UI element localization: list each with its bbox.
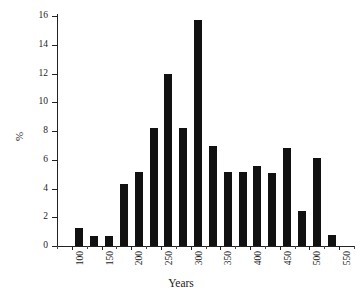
y-tick-label: 6 (26, 155, 48, 165)
x-tick (131, 246, 132, 250)
bar (194, 20, 202, 246)
y-tick-label: 14 (26, 40, 48, 50)
x-tick-label: 550 (343, 251, 353, 265)
bar (268, 173, 276, 246)
x-tick-minor (57, 246, 58, 249)
x-tick-label: 500 (313, 251, 323, 265)
bar (209, 146, 217, 246)
bar (283, 148, 291, 246)
x-tick-label: 250 (165, 251, 175, 265)
bar (150, 128, 158, 246)
x-tick-minor (235, 246, 236, 249)
x-tick-label: 400 (254, 251, 264, 265)
x-tick-label: 350 (224, 251, 234, 265)
x-tick-label: 100 (76, 251, 86, 265)
bar (135, 172, 143, 246)
x-tick-minor (87, 246, 88, 249)
y-tick-label: 16 (26, 11, 48, 21)
y-tick-label: 12 (26, 69, 48, 79)
histogram-figure: % 0246810121416 100150200250300350400450… (0, 0, 362, 297)
x-tick (280, 246, 281, 250)
bar (75, 228, 83, 246)
bar (328, 235, 336, 246)
x-tick (250, 246, 251, 250)
x-axis-label: Years (0, 277, 362, 289)
x-tick-minor (116, 246, 117, 249)
x-tick-label: 200 (135, 251, 145, 265)
x-tick (102, 246, 103, 250)
x-tick-minor (354, 246, 355, 249)
bar (313, 158, 321, 246)
bar (239, 172, 247, 246)
bars-container (57, 16, 354, 246)
x-tick (309, 246, 310, 250)
y-axis-label: % (14, 127, 25, 147)
x-tick-minor (295, 246, 296, 249)
x-tick (161, 246, 162, 250)
bar (179, 128, 187, 246)
y-tick-label: 4 (26, 184, 48, 194)
x-tick-minor (324, 246, 325, 249)
x-tick-minor (176, 246, 177, 249)
bar (105, 236, 113, 246)
x-tick-label: 150 (106, 251, 116, 265)
x-tick (339, 246, 340, 250)
bar (164, 74, 172, 246)
x-tick-minor (146, 246, 147, 249)
bar (253, 166, 261, 247)
y-tick-label: 10 (26, 97, 48, 107)
x-tick-label: 300 (195, 251, 205, 265)
x-tick (220, 246, 221, 250)
y-tick-label: 2 (26, 212, 48, 222)
bar (120, 184, 128, 246)
x-tick-label: 450 (284, 251, 294, 265)
x-tick-minor (206, 246, 207, 249)
x-tick (191, 246, 192, 250)
y-tick-label: 0 (26, 241, 48, 251)
bar (298, 211, 306, 246)
y-tick-label: 8 (26, 126, 48, 136)
x-tick-minor (265, 246, 266, 249)
x-tick (72, 246, 73, 250)
bar (90, 236, 98, 246)
bar (224, 172, 232, 246)
